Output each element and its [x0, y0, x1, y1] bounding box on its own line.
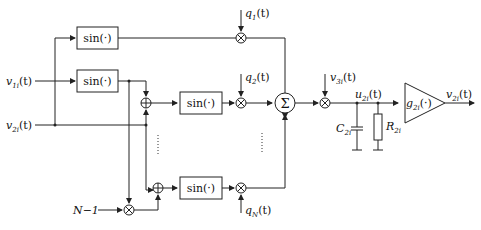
- svg-text:sin(·): sin(·): [187, 97, 215, 110]
- svg-text:v2i(t): v2i(t): [6, 119, 32, 134]
- multiplier-q1: [236, 33, 246, 43]
- svg-text:qN(t): qN(t): [245, 204, 271, 219]
- n-minus-1-label: N−1: [72, 204, 99, 217]
- svg-text:q2(t): q2(t): [245, 71, 270, 86]
- svg-text:R2i: R2i: [385, 120, 401, 135]
- summation-node: Σ: [275, 93, 295, 113]
- adder-n: [153, 183, 163, 193]
- svg-text:v1i(t): v1i(t): [6, 75, 32, 90]
- multiplier-q2: [236, 98, 246, 108]
- svg-text:sin(·): sin(·): [83, 75, 111, 88]
- svg-text:v3i(t): v3i(t): [330, 71, 356, 86]
- svg-text:sin(·): sin(·): [187, 182, 215, 195]
- svg-text:sin(·): sin(·): [83, 32, 111, 45]
- svg-text:v2i(t): v2i(t): [446, 88, 472, 103]
- input-v1i-label: v1i(t): [6, 75, 32, 90]
- adder-1: [141, 98, 151, 108]
- svg-text:g2i(·): g2i(·): [406, 97, 432, 112]
- svg-text:q1(t): q1(t): [245, 7, 270, 22]
- svg-text:Σ: Σ: [280, 96, 289, 111]
- multiplier-n-minus-1: [124, 205, 134, 215]
- block-diagram: v1i(t) v2i(t) sin(·) q1(t) sin(·) sin(·): [0, 0, 481, 230]
- multiplier-qn: [236, 183, 246, 193]
- multiplier-v3i: [320, 98, 330, 108]
- svg-text:u2i(t): u2i(t): [355, 88, 382, 103]
- svg-text:C2i: C2i: [336, 122, 351, 137]
- input-v2i-label: v2i(t): [6, 119, 32, 134]
